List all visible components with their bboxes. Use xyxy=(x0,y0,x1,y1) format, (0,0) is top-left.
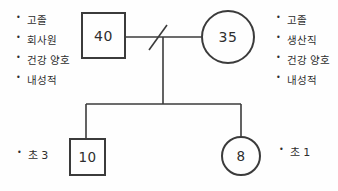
attribute-label: 건강 양호 xyxy=(27,52,70,67)
child1-age: 10 xyxy=(78,149,96,165)
attribute-label: 내성적 xyxy=(287,72,317,87)
list-item: • 내성적 xyxy=(16,69,70,89)
mother-age: 35 xyxy=(219,29,238,45)
separation-slash xyxy=(149,25,167,50)
bullet-icon: • xyxy=(16,14,21,22)
child2-label: • 초 1 xyxy=(279,143,310,159)
bullet-icon: • xyxy=(16,34,21,42)
attribute-label: 회사원 xyxy=(27,32,57,47)
father-attribute-list: • 고졸 • 회사원 • 건강 양호 • 내성적 xyxy=(16,9,70,89)
attribute-label: 고졸 xyxy=(27,12,47,27)
list-item: • 건강 양호 xyxy=(276,49,330,69)
attribute-label: 건강 양호 xyxy=(287,52,330,67)
attribute-label: 고졸 xyxy=(287,12,307,27)
bullet-icon: • xyxy=(17,149,22,157)
child2-node: 8 xyxy=(221,136,261,176)
bullet-icon: • xyxy=(276,14,281,22)
genogram-diagram: • 고졸 • 회사원 • 건강 양호 • 내성적 • 고졸 • 생산직 • 건강… xyxy=(0,0,338,191)
attribute-label: 생산직 xyxy=(287,32,317,47)
bullet-icon: • xyxy=(16,54,21,62)
list-item: • 생산직 xyxy=(276,29,330,49)
bullet-icon: • xyxy=(276,74,281,82)
mother-node: 35 xyxy=(201,10,255,64)
bullet-icon: • xyxy=(276,54,281,62)
bullet-icon: • xyxy=(276,34,281,42)
list-item: • 건강 양호 xyxy=(16,49,70,69)
attribute-label: 내성적 xyxy=(27,72,57,87)
child1-label: • 초 3 xyxy=(17,146,48,162)
child2-age: 8 xyxy=(236,148,245,164)
bullet-icon: • xyxy=(16,74,21,82)
father-age: 40 xyxy=(94,28,113,44)
list-item: • 고졸 xyxy=(16,9,70,29)
list-item: • 고졸 xyxy=(276,9,330,29)
mother-attribute-list: • 고졸 • 생산직 • 건강 양호 • 내성적 xyxy=(276,9,330,89)
list-item: • 내성적 xyxy=(276,69,330,89)
father-node: 40 xyxy=(81,12,126,59)
child2-grade: 초 1 xyxy=(290,143,311,159)
child1-node: 10 xyxy=(69,138,106,176)
list-item: • 회사원 xyxy=(16,29,70,49)
bullet-icon: • xyxy=(279,146,284,154)
child1-grade: 초 3 xyxy=(28,146,49,162)
